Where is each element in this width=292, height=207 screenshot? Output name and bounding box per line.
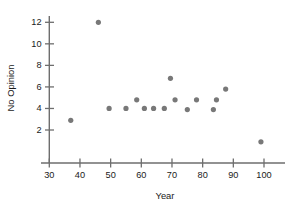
data-point	[185, 107, 190, 112]
y-axis-title: No Opinion	[5, 65, 16, 112]
data-point	[214, 97, 219, 102]
y-tick-label-6: 6	[36, 82, 41, 92]
data-point	[68, 118, 73, 123]
data-point	[162, 106, 167, 111]
x-tick-label-60: 60	[136, 170, 146, 180]
data-point	[172, 97, 177, 102]
data-point	[142, 106, 147, 111]
data-point	[151, 106, 156, 111]
y-tick-label-4: 4	[36, 103, 41, 113]
x-tick-label-30: 30	[44, 170, 54, 180]
x-axis-ticks: 30405060708090100	[44, 159, 271, 181]
x-tick-label-50: 50	[106, 170, 116, 180]
y-axis-ticks: 24681012	[31, 17, 54, 135]
data-point	[211, 107, 216, 112]
x-tick-label-70: 70	[167, 170, 177, 180]
y-tick-label-2: 2	[36, 125, 41, 135]
scatter-plot-figure: 24681012 30405060708090100 Year No Opini…	[0, 0, 292, 207]
data-point	[258, 139, 263, 144]
data-point	[123, 106, 128, 111]
data-point	[107, 106, 112, 111]
y-tick-label-12: 12	[31, 17, 41, 27]
y-tick-label-8: 8	[36, 60, 41, 70]
data-point	[96, 20, 101, 25]
chart-canvas: 24681012 30405060708090100 Year No Opini…	[0, 0, 292, 207]
data-points-layer	[68, 20, 263, 145]
x-tick-label-100: 100	[256, 170, 271, 180]
data-point	[168, 76, 173, 81]
x-tick-label-90: 90	[228, 170, 238, 180]
x-tick-label-80: 80	[198, 170, 208, 180]
data-point	[134, 97, 139, 102]
data-point	[223, 86, 228, 91]
x-axis-title: Year	[156, 190, 175, 201]
x-tick-label-40: 40	[75, 170, 85, 180]
y-tick-label-10: 10	[31, 39, 41, 49]
data-point	[194, 97, 199, 102]
